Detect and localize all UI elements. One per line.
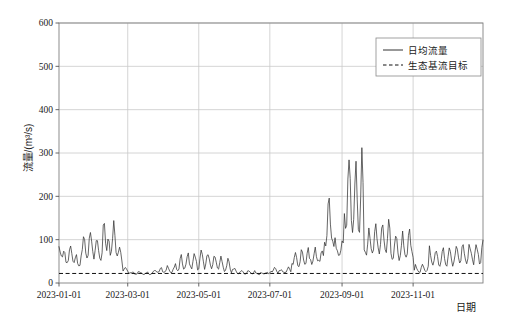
legend-label-baseflow-target: 生态基流目标 (408, 60, 468, 71)
flow-time-series-chart: 0100200300400500600 2023-01-012023-03-01… (0, 0, 505, 328)
y-tick-label: 500 (39, 62, 54, 72)
y-tick-label: 600 (39, 18, 54, 28)
y-tick-label: 300 (39, 148, 54, 158)
y-axis-title: 流量/(m³/s) (22, 124, 34, 173)
x-tick-label: 2023-09-01 (320, 290, 365, 300)
chart-figure: 0100200300400500600 2023-01-012023-03-01… (0, 0, 505, 328)
y-tick-label: 100 (39, 235, 54, 245)
legend-label-daily-flow: 日均流量 (408, 45, 448, 56)
x-tick-label: 2023-03-01 (106, 290, 151, 300)
x-tick-label: 2023-11-01 (391, 290, 435, 300)
x-tick-label: 2023-07-01 (248, 290, 293, 300)
x-tick-label: 2023-01-01 (37, 290, 82, 300)
chart-legend: 日均流量 生态基流目标 (376, 38, 481, 76)
y-tick-label: 0 (48, 278, 53, 288)
y-tick-label: 400 (39, 105, 54, 115)
y-tick-label: 200 (39, 192, 54, 202)
x-tick-label: 2023-05-01 (177, 290, 222, 300)
x-axis-title: 日期 (456, 302, 476, 313)
